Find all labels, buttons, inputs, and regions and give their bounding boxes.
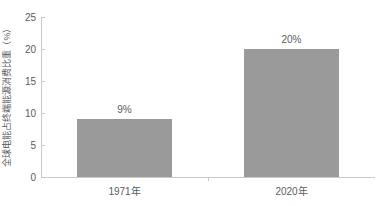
y-axis-tick-label: 25 — [16, 12, 36, 23]
y-axis-tick-label: 0 — [16, 172, 36, 183]
bar-chart: 全球电能占终端能源消费比重（%） 0510152025 1971年2020年 9… — [0, 0, 379, 206]
plot-area — [41, 17, 375, 177]
y-axis-tick-label: 5 — [16, 140, 36, 151]
x-axis-category-label: 1971年 — [108, 183, 140, 198]
x-axis-category-label: 2020年 — [275, 183, 307, 198]
bar-value-label: 20% — [281, 34, 301, 45]
y-axis-tick-labels: 0510152025 — [16, 0, 36, 206]
bar — [244, 49, 338, 177]
bar-value-label: 9% — [117, 104, 131, 115]
y-axis-tick-label: 10 — [16, 108, 36, 119]
x-axis-tick-mark — [208, 177, 209, 181]
y-axis-tick-label: 15 — [16, 76, 36, 87]
y-axis-tick-label: 20 — [16, 44, 36, 55]
bar — [77, 119, 171, 177]
y-axis-tick-mark — [41, 177, 45, 178]
y-axis-title: 全球电能占终端能源消费比重（%） — [0, 5, 14, 185]
